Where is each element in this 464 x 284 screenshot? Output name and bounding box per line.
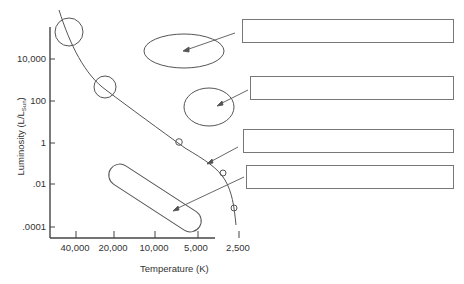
y-tick-label: 10,000: [2, 53, 46, 64]
x-tick-label: 2,500: [218, 242, 258, 253]
white-dwarfs-region: [105, 160, 206, 236]
answer-box-2[interactable]: [250, 76, 454, 100]
y-ticks: [50, 59, 55, 227]
answer-box-3[interactable]: [243, 129, 454, 153]
y-axis-title: Luminosity (L/LSun): [15, 81, 28, 191]
x-axis-title: Temperature (K): [140, 263, 209, 274]
giants-region: [184, 88, 234, 126]
arrow-1: [186, 33, 235, 50]
y-axis-title-sub: Sun: [21, 100, 27, 111]
x-ticks: [76, 231, 239, 238]
arrow-3: [210, 147, 238, 162]
y-axis-title-close: ): [15, 97, 26, 100]
x-tick-label: 10,000: [134, 242, 174, 253]
y-axis-title-text: Luminosity (L/L: [15, 111, 26, 175]
x-tick-label: 20,000: [93, 242, 133, 253]
answer-box-4[interactable]: [246, 165, 454, 189]
giant-star-circle: [94, 76, 116, 98]
y-tick-label: .0001: [2, 221, 46, 232]
supergiant-star-circle: [55, 18, 83, 46]
answer-box-1[interactable]: [242, 19, 454, 43]
x-tick-label: 40,000: [55, 242, 95, 253]
arrows: [173, 33, 248, 211]
star-marker-1: [220, 170, 226, 176]
x-tick-label: 5,000: [176, 242, 216, 253]
